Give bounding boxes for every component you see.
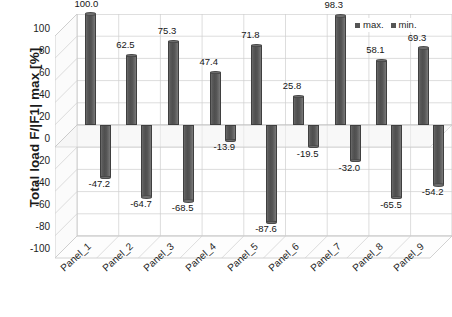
legend-swatch-icon [355, 23, 360, 28]
bar-value-label: 98.3 [325, 0, 344, 10]
y-tick-label: -100 [16, 244, 50, 254]
y-tick-label: 0 [16, 134, 50, 144]
plot-area-3d [55, 14, 452, 262]
legend-swatch-icon [391, 23, 396, 28]
y-tick-label: -60 [16, 200, 50, 210]
chart-root: Total load F/|F1| max [%] [0, 0, 452, 317]
y-tick-label: -40 [16, 178, 50, 188]
y-tick-label: 100 [16, 24, 50, 34]
y-tick-label: -20 [16, 156, 50, 166]
y-tick-label: 60 [16, 68, 50, 78]
y-tick-label: 40 [16, 90, 50, 100]
bar-value-label: 100.0 [75, 0, 99, 9]
y-axis-title: Total load F/|F1| max [%] [27, 0, 42, 258]
legend-item-max: max. [355, 20, 384, 30]
y-tick-label: 20 [16, 112, 50, 122]
y-tick-label: 80 [16, 46, 50, 56]
legend-label: max. [363, 20, 384, 30]
legend: max. min. [352, 18, 420, 32]
y-tick-label: -80 [16, 222, 50, 232]
legend-item-min: min. [391, 20, 417, 30]
legend-label: min. [399, 20, 417, 30]
